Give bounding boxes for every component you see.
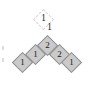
floating-label-upper: 1 bbox=[47, 22, 52, 32]
tile-number: 1 bbox=[16, 56, 29, 69]
diamond-tile[interactable]: 1 bbox=[61, 52, 82, 73]
scan-speck bbox=[2, 46, 4, 50]
figure-canvas: 1 1 1 1 2 2 1 bbox=[0, 0, 88, 88]
tile-number: 1 bbox=[65, 56, 78, 69]
floating-label-top: 1 bbox=[41, 13, 46, 23]
scan-speck bbox=[2, 58, 4, 62]
